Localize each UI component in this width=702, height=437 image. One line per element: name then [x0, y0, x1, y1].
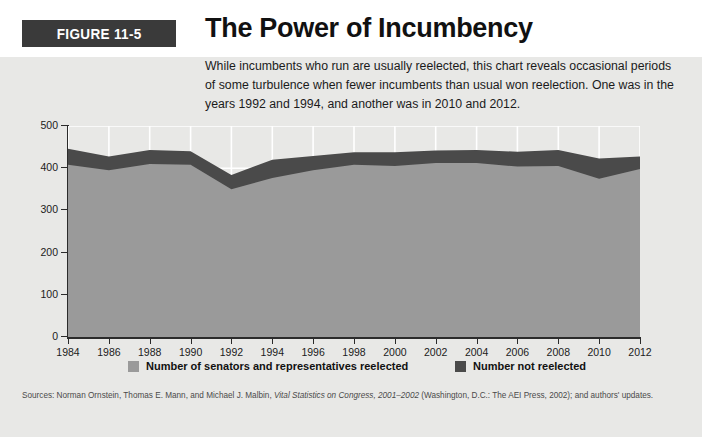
chart-container: 500 400 300 200 100 0	[0, 57, 702, 437]
x-tick-mark	[313, 339, 314, 344]
area-chart-svg	[68, 126, 640, 337]
source-prefix: Sources: Norman Ornstein, Thomas E. Mann…	[22, 391, 274, 400]
x-tick-label-2004: 2004	[465, 346, 488, 358]
legend-swatch-light	[128, 361, 139, 372]
legend-item-reelected: Number of senators and representatives r…	[128, 360, 408, 372]
x-tick-mark	[599, 339, 600, 344]
y-tick-label-0: 0	[24, 330, 58, 342]
plot-area	[68, 126, 640, 337]
y-tick-label-100: 100	[24, 288, 58, 300]
legend-label-reelected: Number of senators and representatives r…	[146, 360, 408, 372]
x-tick-mark	[68, 339, 69, 344]
x-tick-mark	[395, 339, 396, 344]
x-tick-mark	[231, 339, 232, 344]
x-tick-mark	[517, 339, 518, 344]
legend-item-not-reelected: Number not reelected	[455, 360, 586, 372]
x-tick-label-1988: 1988	[138, 346, 161, 358]
x-tick-label-1996: 1996	[301, 346, 324, 358]
x-tick-mark	[272, 339, 273, 344]
x-tick-label-2008: 2008	[547, 346, 570, 358]
figure-title: The Power of Incumbency	[205, 13, 533, 44]
figure-number-label: FIGURE 11-5	[57, 25, 142, 42]
source-title: Vital Statistics on Congress, 2001–2002	[274, 391, 419, 400]
x-tick-label-2002: 2002	[424, 346, 447, 358]
y-tick-label-300: 300	[24, 203, 58, 215]
x-tick-mark	[558, 339, 559, 344]
y-axis-labels: 500 400 300 200 100 0	[16, 57, 58, 357]
x-tick-label-1990: 1990	[179, 346, 202, 358]
x-tick-label-1986: 1986	[97, 346, 120, 358]
y-tick-label-500: 500	[24, 119, 58, 131]
x-tick-mark	[477, 339, 478, 344]
x-tick-label-2006: 2006	[506, 346, 529, 358]
x-tick-label-1992: 1992	[220, 346, 243, 358]
figure-body-panel: While incumbents who run are usually ree…	[0, 57, 702, 437]
figure-source: Sources: Norman Ornstein, Thomas E. Mann…	[22, 390, 682, 402]
x-tick-label-1984: 1984	[56, 346, 79, 358]
x-tick-label-2012: 2012	[628, 346, 651, 358]
x-tick-mark	[150, 339, 151, 344]
figure-page: FIGURE 11-5 The Power of Incumbency Whil…	[0, 0, 702, 437]
x-tick-label-2010: 2010	[587, 346, 610, 358]
x-tick-label-2000: 2000	[383, 346, 406, 358]
y-tick-label-200: 200	[24, 246, 58, 258]
figure-header: FIGURE 11-5 The Power of Incumbency	[0, 0, 702, 57]
series-reelected-area	[68, 163, 640, 337]
source-suffix: (Washington, D.C.: The AEI Press, 2002);…	[419, 391, 653, 400]
chart-legend: Number of senators and representatives r…	[0, 360, 702, 376]
x-tick-label-1998: 1998	[342, 346, 365, 358]
y-tick-label-400: 400	[24, 161, 58, 173]
legend-label-not-reelected: Number not reelected	[473, 360, 586, 372]
x-tick-mark	[354, 339, 355, 344]
x-tick-mark	[109, 339, 110, 344]
x-tick-label-1994: 1994	[261, 346, 284, 358]
x-tick-mark	[436, 339, 437, 344]
x-tick-mark	[640, 339, 641, 344]
legend-swatch-dark	[455, 361, 466, 372]
figure-number-badge: FIGURE 11-5	[22, 20, 176, 47]
x-tick-mark	[191, 339, 192, 344]
